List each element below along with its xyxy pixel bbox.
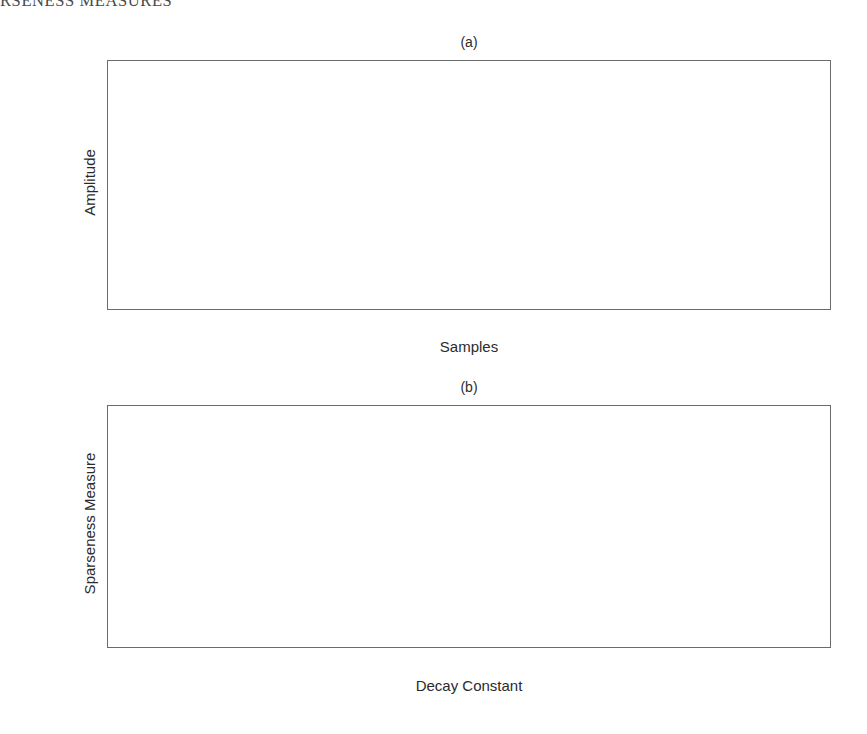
panel-a-curves [108, 61, 830, 309]
panel-b-curves [108, 406, 830, 647]
panel-b-title: (b) [107, 379, 831, 395]
panel-a: (a) Samples Amplitude [107, 60, 831, 310]
panel-a-xlabel: Samples [107, 338, 831, 355]
panel-a-axes [107, 60, 831, 310]
panel-b-xlabel: Decay Constant [107, 677, 831, 694]
panel-b-gridlines [108, 406, 830, 647]
panel-a-title: (a) [107, 34, 831, 50]
panel-b-axes [107, 405, 831, 648]
panel-a-ticks [108, 61, 830, 309]
figure-container: (a) Samples Amplitude (b) Decay Constant… [0, 0, 867, 734]
panel-a-ylabel: Amplitude [81, 93, 98, 273]
panel-b-ticks [108, 406, 830, 647]
panel-b-ylabel: Sparseness Measure [81, 404, 98, 644]
panel-a-gridlines [108, 61, 830, 309]
panel-b: (b) Decay Constant Sparseness Measure [107, 405, 831, 648]
